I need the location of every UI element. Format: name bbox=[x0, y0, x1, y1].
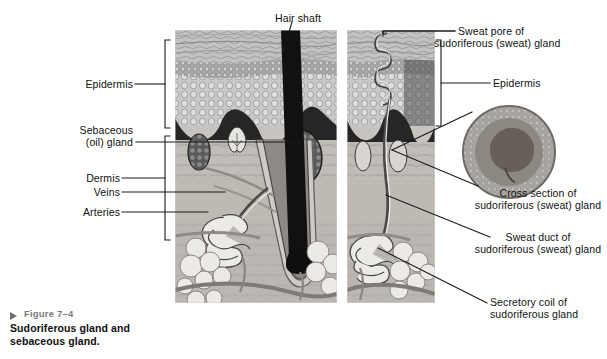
figure-canvas: Hair shaft Epidermis Sebaceous (oil) gla… bbox=[0, 0, 607, 359]
label-sebaceous-line1: Sebaceous bbox=[35, 124, 133, 136]
bracket-dermis bbox=[165, 136, 170, 240]
label-dermis: Dermis bbox=[35, 172, 120, 184]
label-sweat-duct-line1: Sweat duct of bbox=[468, 231, 607, 243]
label-epidermis: Epidermis bbox=[35, 78, 133, 90]
bracket-epidermis bbox=[165, 40, 170, 128]
panel-sweat-gland bbox=[347, 30, 436, 303]
label-cross-section-line1: Cross section of bbox=[468, 187, 607, 199]
label-epidermis-right: Epidermis bbox=[493, 77, 593, 89]
triangle-right-icon bbox=[10, 312, 17, 320]
figure-title-line1: Sudoriferous gland and bbox=[10, 322, 190, 335]
bracket-epidermis-right bbox=[436, 40, 441, 126]
label-sweat-pore: Sweat pore of sudoriferous (sweat) gland bbox=[458, 25, 604, 49]
label-sweat-duct-line2: sudoriferous (sweat) gland bbox=[468, 243, 607, 255]
label-sweat-duct: Sweat duct of sudoriferous (sweat) gland bbox=[468, 231, 607, 255]
label-sebaceous-gland: Sebaceous (oil) gland bbox=[35, 124, 133, 148]
label-veins: Veins bbox=[35, 186, 120, 198]
label-cross-section-line2: sudoriferous (sweat) gland bbox=[468, 199, 607, 211]
label-hair-shaft: Hair shaft bbox=[258, 12, 338, 24]
panel-hair-sebaceous bbox=[175, 30, 343, 309]
figure-title-line2: sebaceous gland. bbox=[10, 335, 190, 348]
label-sweat-pore-line1: Sweat pore of bbox=[458, 25, 604, 37]
label-sweat-pore-line2: sudoriferous (sweat) gland bbox=[434, 37, 604, 49]
label-sebaceous-line2: (oil) gland bbox=[35, 136, 133, 148]
label-secretory-coil-line2: sudoriferous gland bbox=[490, 308, 606, 320]
label-arteries: Arteries bbox=[35, 206, 120, 218]
gland-cross-section-inset bbox=[463, 106, 555, 198]
label-cross-section: Cross section of sudoriferous (sweat) gl… bbox=[468, 187, 607, 211]
label-secretory-coil-line1: Secretory coil of bbox=[490, 296, 606, 308]
label-secretory-coil: Secretory coil of sudoriferous gland bbox=[490, 296, 606, 320]
figure-number: Figure 7–4 bbox=[24, 308, 74, 319]
